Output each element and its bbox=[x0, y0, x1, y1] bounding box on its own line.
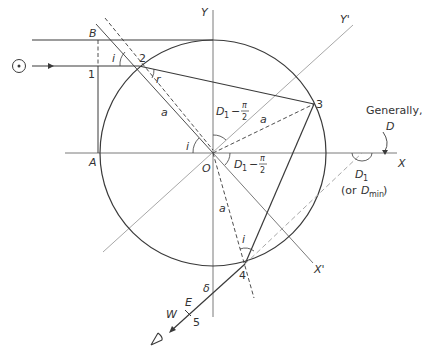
normal-line-2 bbox=[96, 24, 213, 153]
svg-text:π: π bbox=[260, 154, 265, 163]
svg-text:−: − bbox=[231, 105, 240, 118]
svg-text:1: 1 bbox=[224, 111, 229, 120]
label-x-axis: X bbox=[397, 157, 406, 170]
angle-arc-lower bbox=[225, 153, 230, 165]
angle-arc-i-center bbox=[193, 138, 199, 153]
svg-text:): ) bbox=[383, 184, 387, 197]
label-angle-upper-D1-minus-pi-over-2: D 1 − π 2 bbox=[216, 101, 249, 122]
label-point-4: 4 bbox=[239, 269, 246, 282]
label-x-prime: X' bbox=[313, 263, 325, 276]
label-y-axis: Y bbox=[201, 6, 209, 19]
angle-arc-r bbox=[152, 69, 154, 78]
rainbow-geometry-diagram: Y Y' X X' B 1 2 3 4 5 A O i r i i a a a … bbox=[0, 0, 425, 359]
label-west: W bbox=[166, 308, 178, 321]
label-radius-a-right: a bbox=[260, 113, 267, 126]
label-point-A: A bbox=[88, 156, 97, 169]
label-generally-D: D bbox=[386, 120, 394, 133]
svg-text:2: 2 bbox=[260, 166, 265, 175]
svg-text:min: min bbox=[369, 190, 384, 199]
label-y-prime: Y' bbox=[340, 13, 350, 26]
svg-text:2: 2 bbox=[242, 113, 247, 122]
label-angle-r: r bbox=[156, 73, 162, 86]
svg-text:1: 1 bbox=[363, 174, 368, 183]
svg-text:−: − bbox=[249, 158, 258, 171]
ray-3-to-4 bbox=[245, 104, 314, 264]
label-generally: Generally, bbox=[366, 104, 422, 117]
svg-text:(or: (or bbox=[341, 184, 357, 197]
angle-arc-i-top bbox=[120, 52, 125, 66]
angle-arc-upper bbox=[213, 135, 226, 140]
label-point-5: 5 bbox=[193, 316, 200, 329]
label-angle-i-bottom: i bbox=[242, 233, 245, 246]
label-point-3: 3 bbox=[316, 98, 323, 111]
label-angle-lower-D1-minus-pi-over-2: D 1 − π 2 bbox=[234, 154, 267, 175]
label-D1: D 1 bbox=[355, 168, 368, 183]
label-point-1: 1 bbox=[88, 68, 95, 81]
svg-text:1: 1 bbox=[242, 164, 247, 173]
eye-icon bbox=[151, 333, 162, 345]
exit-ray bbox=[172, 264, 245, 330]
label-or-dmin: (or D min ) bbox=[341, 184, 387, 199]
label-point-B: B bbox=[89, 27, 97, 40]
svg-text:π: π bbox=[242, 101, 247, 110]
label-angle-i-top: i bbox=[112, 52, 115, 65]
label-east: E bbox=[185, 296, 192, 309]
generally-arrow bbox=[383, 132, 387, 151]
label-delta: δ bbox=[203, 282, 210, 295]
label-point-2: 2 bbox=[139, 52, 146, 65]
label-radius-a-lower: a bbox=[219, 202, 226, 215]
label-radius-a-upper: a bbox=[161, 106, 168, 119]
label-point-O: O bbox=[202, 162, 211, 175]
incident-arrow-icon bbox=[48, 63, 54, 69]
angle-arc-D1 bbox=[352, 153, 372, 161]
sun-icon bbox=[13, 60, 26, 73]
radius-O-to-4 bbox=[213, 153, 254, 298]
ray-2-to-3 bbox=[139, 66, 314, 104]
label-angle-i-center: i bbox=[186, 140, 189, 153]
